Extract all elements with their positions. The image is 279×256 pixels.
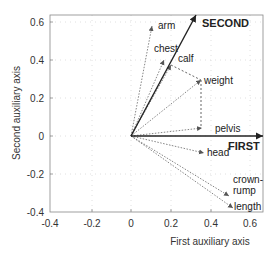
svg-text:0.4: 0.4: [204, 218, 218, 229]
vector-pelvis: [131, 128, 202, 136]
label-first: FIRST: [228, 140, 260, 152]
svg-text:0.2: 0.2: [164, 218, 178, 229]
y-axis-label: Second auxiliary axis: [11, 66, 22, 160]
svg-text:0.2: 0.2: [30, 93, 44, 104]
x-axis-label: First auxiliary axis: [170, 236, 249, 247]
label-calf: calf: [178, 53, 194, 64]
svg-text:-0.2: -0.2: [27, 169, 45, 180]
label-crown-rump-1: crown-: [233, 174, 263, 185]
biplot-chart: -0.4 -0.2 0 0.2 0.4 0.6 0.6 0.4 0.2 0 -0…: [0, 0, 279, 256]
svg-text:0.4: 0.4: [30, 55, 44, 66]
ticks: [50, 22, 250, 212]
vector-head: [131, 136, 204, 153]
projection-lines: [171, 65, 201, 128]
svg-text:0.6: 0.6: [243, 218, 257, 229]
vector-arm: [131, 26, 152, 136]
label-pelvis: pelvis: [215, 123, 241, 134]
svg-text:0.6: 0.6: [30, 17, 44, 28]
vector-crown-rump: [131, 136, 229, 196]
label-chest: chest: [154, 43, 178, 54]
label-crown-rump-2: rump: [233, 185, 256, 196]
y-tick-labels: 0.6 0.4 0.2 0 -0.2 -0.4: [27, 17, 45, 218]
label-length: length: [234, 201, 261, 212]
svg-text:-0.4: -0.4: [41, 218, 59, 229]
label-second: SECOND: [202, 17, 249, 29]
label-head: head: [207, 147, 229, 158]
label-weight: weight: [203, 75, 233, 86]
label-arm: arm: [158, 20, 175, 31]
axis-second: [131, 15, 196, 136]
svg-text:0: 0: [128, 218, 134, 229]
auxiliary-axes: [131, 15, 263, 136]
svg-text:-0.4: -0.4: [27, 207, 45, 218]
svg-text:0: 0: [38, 131, 44, 142]
vector-weight: [131, 80, 201, 136]
x-tick-labels: -0.4 -0.2 0 0.2 0.4 0.6: [41, 218, 257, 229]
svg-text:-0.2: -0.2: [83, 218, 101, 229]
